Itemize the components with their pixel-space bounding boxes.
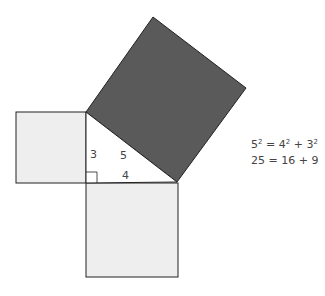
leg-square-4 — [86, 183, 178, 277]
leg-square-3 — [16, 112, 86, 183]
equation-values: 25 = 16 + 9 — [251, 154, 318, 168]
side-c-label: 5 — [120, 149, 127, 162]
equation-squares: 52 = 42 + 32 — [251, 138, 318, 152]
side-b-label: 4 — [122, 169, 129, 182]
side-a-label: 3 — [90, 148, 97, 161]
